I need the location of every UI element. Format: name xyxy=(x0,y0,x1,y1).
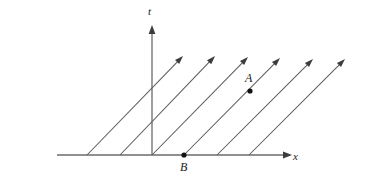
x-axis-arrowhead xyxy=(283,152,292,159)
x-axis-label: x xyxy=(293,151,298,162)
x-axis xyxy=(57,152,292,159)
event-dot-b xyxy=(181,152,186,157)
event-label-b: B xyxy=(180,161,187,173)
event-dot-a xyxy=(247,88,252,93)
diagram-canvas xyxy=(0,0,367,182)
t-axis-arrowhead xyxy=(149,25,156,34)
t-axis-label: t xyxy=(148,6,151,17)
event-label-a: A xyxy=(245,72,252,84)
vector-field-group xyxy=(87,56,345,155)
spacetime-diagram-figure: x t A B xyxy=(0,0,367,182)
